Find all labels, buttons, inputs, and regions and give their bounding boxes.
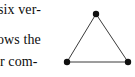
edge-top-bottomleft bbox=[67, 14, 96, 62]
edge-top-bottomright bbox=[96, 14, 128, 62]
text-line-2: ows the bbox=[0, 33, 41, 47]
vertex-top bbox=[93, 11, 99, 17]
vertex-bottom-left bbox=[64, 59, 70, 65]
triangle-graph-figure bbox=[56, 0, 135, 77]
triangle-graph-svg bbox=[56, 0, 135, 77]
graph-vertices bbox=[64, 11, 131, 65]
vertex-bottom-right bbox=[125, 59, 131, 65]
text-column: six ver- ows the r com- bbox=[0, 0, 56, 77]
text-line-1: six ver- bbox=[0, 3, 41, 17]
graph-edges bbox=[67, 14, 128, 62]
text-line-3: r com- bbox=[0, 55, 38, 69]
page-canvas: six ver- ows the r com- bbox=[0, 0, 135, 77]
